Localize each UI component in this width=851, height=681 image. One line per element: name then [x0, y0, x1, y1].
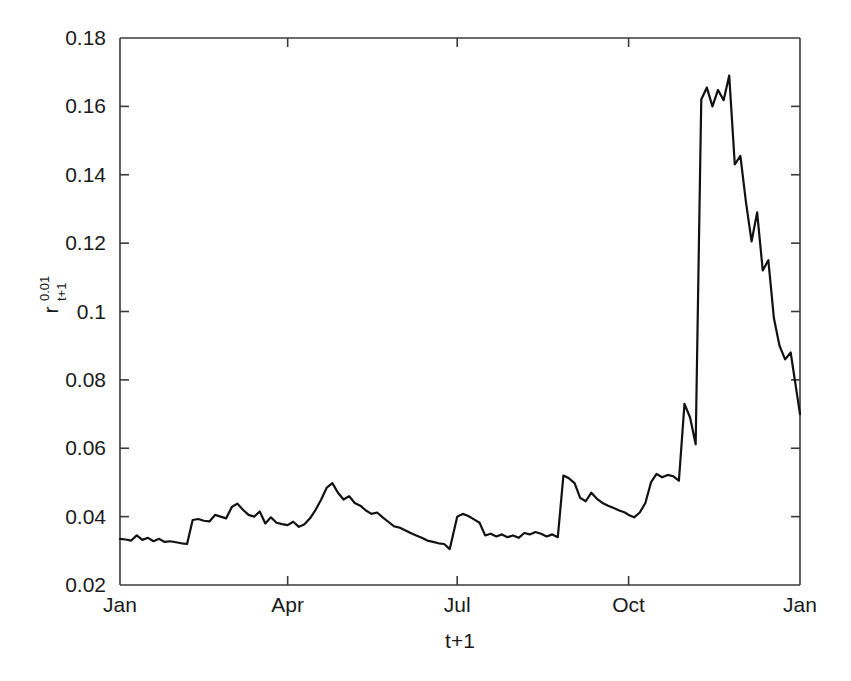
x-axis-title: t+1: [445, 629, 475, 652]
x-axis-ticks: [288, 38, 629, 585]
y-tick-label: 0.16: [65, 94, 106, 117]
y-tick-label: 0.06: [65, 436, 106, 459]
x-tick-label: Jan: [783, 593, 817, 616]
x-tick-label: Jul: [444, 593, 471, 616]
y-axis-title-superscript: 0.01: [37, 276, 52, 301]
y-tick-label: 0.04: [65, 505, 106, 528]
chart-figure: 0.020.040.060.080.10.120.140.160.18 JanA…: [0, 0, 851, 681]
y-axis-title-subscript: t+1: [54, 283, 69, 301]
data-series-group: [120, 76, 800, 549]
y-axis-tick-labels: 0.020.040.060.080.10.120.140.160.18: [65, 26, 106, 596]
y-tick-label: 0.14: [65, 163, 106, 186]
y-tick-label: 0.18: [65, 26, 106, 49]
x-tick-label: Oct: [612, 593, 645, 616]
y-tick-label: 0.1: [77, 300, 106, 323]
x-tick-label: Apr: [271, 593, 304, 616]
y-tick-label: 0.12: [65, 231, 106, 254]
series-line: [120, 76, 800, 549]
y-axis-title-base: r: [39, 307, 62, 314]
y-axis-title: r 0.01 t+1: [37, 276, 69, 314]
x-axis-tick-labels: JanAprJulOctJan: [103, 593, 817, 616]
y-tick-label: 0.02: [65, 573, 106, 596]
x-tick-label: Jan: [103, 593, 137, 616]
line-chart: 0.020.040.060.080.10.120.140.160.18 JanA…: [0, 0, 851, 681]
y-tick-label: 0.08: [65, 368, 106, 391]
